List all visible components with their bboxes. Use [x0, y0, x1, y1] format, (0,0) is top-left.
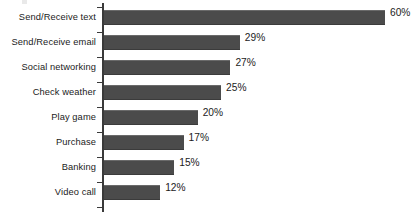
bar-row: Check weather25%	[0, 80, 419, 105]
bar-value-label: 15%	[174, 155, 199, 170]
bar-category-label: Check weather	[0, 80, 96, 105]
bar-category-label: Send/Receive text	[0, 5, 96, 30]
axis-tick	[97, 32, 103, 33]
bar-track	[104, 85, 221, 100]
bar	[104, 135, 184, 150]
bar-category-label: Purchase	[0, 130, 96, 155]
bar-category-label: Video call	[0, 180, 96, 205]
axis-tick	[97, 157, 103, 158]
axis-tick	[97, 107, 103, 108]
bar-track	[104, 60, 230, 75]
bar-value-label: 27%	[230, 55, 255, 70]
bar-row: Purchase17%	[0, 130, 419, 155]
scan-artifact	[22, 0, 27, 4]
bar	[104, 160, 174, 175]
bar-category-label: Play game	[0, 105, 96, 130]
axis-tick	[97, 207, 103, 208]
bar-row: Banking15%	[0, 155, 419, 180]
bar-track	[104, 160, 174, 175]
bar-value-label: 12%	[160, 180, 185, 195]
bar-category-label: Banking	[0, 155, 96, 180]
axis-tick	[97, 182, 103, 183]
bar-row: Send/Receive email29%	[0, 30, 419, 55]
bar-track	[104, 35, 240, 50]
bar-track	[104, 110, 198, 125]
bar	[104, 35, 240, 50]
bar-track	[104, 185, 160, 200]
bar-value-label: 60%	[385, 5, 410, 20]
bar-value-label: 17%	[184, 130, 209, 145]
axis-tick	[97, 57, 103, 58]
bar-track	[104, 135, 184, 150]
bar-value-label: 20%	[198, 105, 223, 120]
bar-row: Send/Receive text60%	[0, 5, 419, 30]
bar-track	[104, 10, 385, 25]
bar	[104, 85, 221, 100]
bar-category-label: Send/Receive email	[0, 30, 96, 55]
bar-value-label: 25%	[221, 80, 246, 95]
bar-rows: Send/Receive text60%Send/Receive email29…	[0, 5, 419, 205]
bar-category-label: Social networking	[0, 55, 96, 80]
bar	[104, 10, 385, 25]
bar-chart: Send/Receive text60%Send/Receive email29…	[0, 0, 419, 216]
bar-row: Video call12%	[0, 180, 419, 205]
bar-row: Social networking27%	[0, 55, 419, 80]
bar	[104, 185, 160, 200]
bar	[104, 110, 198, 125]
bar-row: Play game20%	[0, 105, 419, 130]
axis-tick	[97, 82, 103, 83]
axis-tick	[97, 132, 103, 133]
bar	[104, 60, 230, 75]
axis-tick	[97, 7, 103, 8]
bar-value-label: 29%	[240, 30, 265, 45]
